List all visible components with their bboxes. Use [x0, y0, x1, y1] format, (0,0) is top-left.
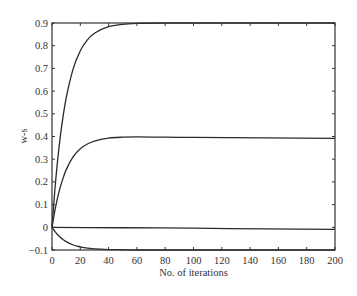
x-tick-label: 120	[214, 255, 230, 266]
series-line-4	[52, 227, 335, 250]
y-tick-label: 0.2	[35, 176, 48, 187]
y-tick-label: 0.8	[35, 40, 48, 51]
x-tick-label: 40	[103, 255, 114, 266]
x-tick-label: 180	[299, 255, 315, 266]
y-tick-label: 0.7	[35, 63, 48, 74]
y-tick-label: −0.1	[29, 245, 48, 256]
y-tick-label: 0.9	[35, 18, 48, 29]
line-chart: 020406080100120140160180200 −0.100.10.20…	[0, 0, 357, 296]
series-line-3	[52, 227, 335, 229]
x-tick-label: 200	[327, 255, 343, 266]
y-tick-label: 0.4	[35, 131, 49, 142]
x-axis-label: No. of iterations	[159, 267, 228, 278]
y-tick-label: 0.6	[35, 86, 48, 97]
series-layer	[52, 23, 335, 250]
series-line-1	[52, 23, 335, 227]
y-axis-ticks: −0.100.10.20.30.40.50.60.70.80.9	[29, 18, 335, 256]
y-axis-label: w-s	[18, 128, 29, 143]
y-tick-label: 0.1	[35, 199, 48, 210]
y-tick-label: 0	[43, 222, 48, 233]
y-tick-label: 0.3	[35, 154, 48, 165]
plot-frame	[52, 23, 335, 250]
y-tick-label: 0.5	[35, 108, 48, 119]
x-tick-label: 60	[132, 255, 143, 266]
x-tick-label: 20	[75, 255, 86, 266]
x-tick-label: 80	[160, 255, 171, 266]
x-tick-label: 0	[49, 255, 54, 266]
x-tick-label: 100	[186, 255, 202, 266]
x-tick-label: 160	[271, 255, 287, 266]
x-tick-label: 140	[242, 255, 258, 266]
series-line-2	[52, 137, 335, 227]
